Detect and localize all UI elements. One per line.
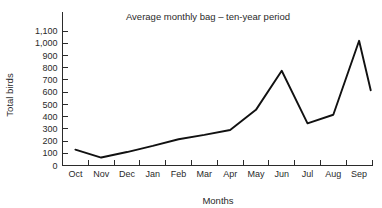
x-axis-tick-label: Jun (274, 169, 289, 179)
x-axis-tick-label: May (247, 169, 265, 179)
x-axis-tick-label: Apr (223, 169, 237, 179)
x-axis-tick-label: Feb (171, 169, 187, 179)
x-axis-tick-label: Sep (351, 169, 367, 179)
x-axis-tick-label: Nov (93, 169, 110, 179)
x-axis-tick-label: Jan (146, 169, 161, 179)
y-axis-tick-label: 800 (42, 63, 57, 73)
y-axis-tick-label: 700 (42, 75, 57, 85)
y-axis-title-group: Total birds (4, 73, 15, 117)
x-axis-ticks (88, 160, 372, 166)
data-series-line (75, 41, 370, 158)
x-axis-tick-label: Dec (119, 169, 136, 179)
y-axis-tick-label: 900 (42, 51, 57, 61)
x-axis-tick-labels: OctNovDecJanFebMarAprMayJunJulAugSep (68, 169, 367, 179)
y-axis-tick-label: 400 (42, 112, 57, 122)
y-axis-tick-label: 0 (52, 161, 57, 171)
x-axis-title: Months (202, 195, 233, 206)
line-chart: Average monthly bag – ten-year period To… (0, 0, 382, 208)
y-axis-title: Total birds (4, 73, 15, 117)
y-axis-tick-label: 1,100 (35, 26, 58, 36)
y-axis-tick-label: 600 (42, 87, 57, 97)
x-axis-tick-label: Oct (68, 169, 83, 179)
y-axis-tick-label: 1,000 (35, 38, 58, 48)
chart-container: Average monthly bag – ten-year period To… (0, 0, 382, 208)
chart-title-group: Average monthly bag – ten-year period (126, 11, 290, 22)
y-axis-tick-label: 300 (42, 124, 57, 134)
chart-title: Average monthly bag – ten-year period (126, 11, 290, 22)
y-axis-tick-label: 100 (42, 148, 57, 158)
x-axis-tick-label: Jul (302, 169, 314, 179)
x-axis-tick-label: Mar (197, 169, 213, 179)
x-axis-title-group: Months (202, 195, 233, 206)
x-axis-tick-label: Aug (325, 169, 341, 179)
y-axis-tick-label: 500 (42, 100, 57, 110)
y-axis-tick-label: 200 (42, 136, 57, 146)
